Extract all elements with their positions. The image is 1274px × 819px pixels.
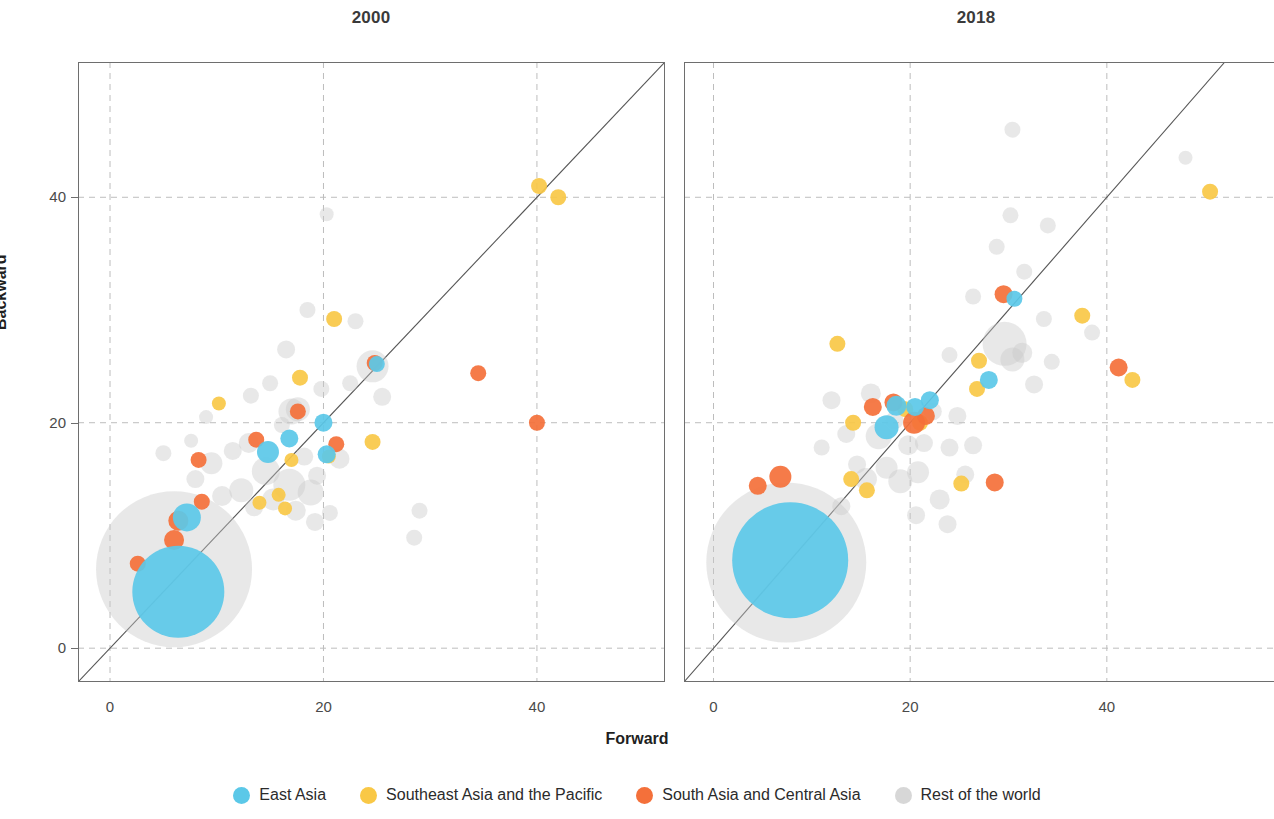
y-tick-label: 0: [26, 639, 66, 656]
scatter-bubble: [1004, 122, 1020, 138]
legend-item-label: Southeast Asia and the Pacific: [386, 786, 602, 804]
scatter-bubble: [971, 353, 987, 369]
scatter-bubble: [212, 486, 232, 506]
scatter-bubble: [965, 288, 981, 304]
scatter-bubble: [155, 445, 171, 461]
scatter-bubble: [295, 448, 313, 466]
scatter-bubble: [550, 189, 566, 205]
scatter-bubble: [531, 178, 547, 194]
scatter-bubble: [284, 453, 298, 467]
scatter-bubble: [184, 434, 198, 448]
panel-title-2000: 2000: [316, 8, 426, 28]
scatter-bubble: [814, 440, 830, 456]
scatter-bubble: [848, 455, 866, 473]
scatter-bubble: [224, 442, 242, 460]
scatter-svg-2000: [78, 62, 665, 682]
scatter-bubble: [907, 461, 929, 483]
scatter-bubble: [342, 375, 358, 391]
scatter-bubble: [875, 415, 899, 439]
scatter-bubble: [1012, 343, 1032, 363]
y-tick-label: 40: [26, 188, 66, 205]
scatter-bubble: [832, 497, 850, 515]
scatter-bubble: [191, 452, 207, 468]
panel-title-2018: 2018: [921, 8, 1031, 28]
legend-item[interactable]: Rest of the world: [895, 786, 1041, 804]
scatter-bubble: [322, 505, 338, 521]
x-tick-label: 0: [90, 698, 130, 715]
legend-item-label: Rest of the world: [921, 786, 1041, 804]
scatter-bubble: [369, 356, 385, 372]
scatter-bubble: [199, 410, 213, 424]
scatter-bubble: [243, 388, 259, 404]
scatter-bubble: [948, 407, 966, 425]
scatter-bubble: [412, 503, 428, 519]
scatter-bubble: [212, 397, 226, 411]
scatter-bubble: [326, 311, 342, 327]
scatter-bubble: [320, 207, 334, 221]
x-tick-label: 20: [303, 698, 343, 715]
scatter-bubble: [843, 471, 859, 487]
scatter-bubble: [886, 396, 906, 416]
scatter-bubble: [529, 415, 545, 431]
circle-marker-icon: [895, 787, 912, 804]
scatter-bubble: [859, 482, 875, 498]
y-tick-label: 20: [26, 414, 66, 431]
scatter-bubble: [406, 530, 422, 546]
scatter-bubble: [173, 503, 201, 531]
scatter-bubble: [930, 489, 950, 509]
legend-item[interactable]: Southeast Asia and the Pacific: [360, 786, 602, 804]
plot-canvas-2000: [78, 62, 665, 682]
legend-item[interactable]: East Asia: [233, 786, 326, 804]
x-axis-label: Forward: [0, 730, 1274, 748]
y-tick-mark: [71, 423, 78, 424]
scatter-bubble: [229, 478, 253, 502]
scatter-bubble: [829, 336, 845, 352]
scatter-bubble: [373, 388, 391, 406]
scatter-bubble: [1016, 264, 1032, 280]
scatter-bubble: [980, 371, 998, 389]
scatter-bubble: [318, 445, 336, 463]
scatter-bubble: [132, 546, 224, 638]
scatter-bubble: [1110, 358, 1128, 376]
scatter-bubble: [1084, 325, 1100, 341]
scatter-svg-2018: [684, 62, 1274, 682]
scatter-bubble: [941, 439, 959, 457]
scatter-bubble: [278, 501, 292, 515]
scatter-bubble: [989, 239, 1005, 255]
scatter-bubble: [308, 467, 326, 485]
y-axis-label: Backward: [0, 254, 10, 330]
scatter-bubble: [953, 476, 969, 492]
scatter-bubble: [898, 435, 918, 455]
y-tick-mark: [71, 197, 78, 198]
scatter-panel-2018: [684, 62, 1274, 682]
scatter-bubble: [907, 506, 925, 524]
scatter-bubble: [921, 391, 939, 409]
y-tick-mark: [71, 648, 78, 649]
scatter-bubble: [262, 375, 278, 391]
scatter-bubble: [252, 496, 266, 510]
scatter-bubble: [823, 391, 841, 409]
scatter-bubble: [769, 466, 791, 488]
scatter-bubble: [1036, 311, 1052, 327]
scatter-bubble: [292, 370, 308, 386]
scatter-bubble: [347, 313, 363, 329]
scatter-bubble: [1040, 217, 1056, 233]
scatter-bubble: [864, 398, 882, 416]
scatter-bubble: [939, 515, 957, 533]
circle-marker-icon: [636, 787, 653, 804]
scatter-bubble: [277, 340, 295, 358]
x-tick-label: 20: [890, 698, 930, 715]
scatter-bubble: [299, 302, 315, 318]
scatter-bubble: [257, 441, 279, 463]
legend-item[interactable]: South Asia and Central Asia: [636, 786, 860, 804]
scatter-bubble: [313, 381, 329, 397]
scatter-bubble: [1002, 207, 1018, 223]
circle-marker-icon: [360, 787, 377, 804]
x-tick-label: 40: [517, 698, 557, 715]
scatter-bubble: [876, 457, 898, 479]
scatter-bubble: [290, 403, 306, 419]
scatter-bubble: [1124, 372, 1140, 388]
scatter-bubble: [1202, 184, 1218, 200]
scatter-bubble: [1044, 354, 1060, 370]
scatter-bubble: [1179, 151, 1193, 165]
